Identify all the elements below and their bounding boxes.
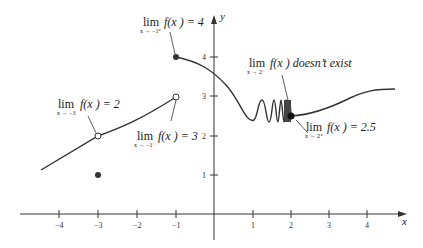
svg-text:f(x ) = 3: f(x ) = 3 [158, 129, 198, 143]
x-tick-label: −3 [94, 221, 103, 230]
svg-text:x → −1⁺: x → −1⁺ [140, 28, 161, 34]
open-point [95, 133, 101, 139]
y-tick-label: 2 [202, 132, 206, 141]
filled-point [173, 54, 179, 60]
x-tick-label: 2 [289, 221, 293, 230]
annotation-lim-x-neg1-left: lim x → −1⁻ f(x ) = 3 [134, 129, 198, 148]
x-tick-label: −1 [172, 221, 181, 230]
svg-text:lim: lim [249, 56, 266, 70]
open-point [173, 94, 179, 100]
x-tick-label: 3 [327, 221, 331, 230]
annotation-lim-x-2-left: lim x → 2⁻ f(x ) doesn’t exist [247, 56, 352, 75]
x-tick-label: −2 [133, 221, 142, 230]
svg-text:x → 2⁻: x → 2⁻ [247, 69, 265, 75]
x-axis-label: x [401, 215, 407, 227]
svg-text:lim: lim [143, 15, 160, 29]
y-tick-label: 3 [202, 92, 206, 101]
svg-text:f(x ) = 4: f(x ) = 4 [164, 15, 204, 29]
y-axis-label: y [219, 10, 225, 22]
annotation-lim-x-neg1-right: lim x → −1⁺ f(x ) = 4 [140, 15, 204, 34]
svg-text:lim: lim [58, 97, 75, 111]
leader-lines [88, 32, 308, 133]
svg-text:f(x ) = 2.5: f(x ) = 2.5 [327, 120, 376, 134]
x-tick-label: 4 [365, 221, 369, 230]
y-axis [211, 15, 217, 240]
annotation-lim-x-2-right: lim x → 2⁺ f(x ) = 2.5 [305, 120, 376, 139]
svg-text:x → 2⁺: x → 2⁺ [305, 133, 323, 139]
svg-text:x → −1⁻: x → −1⁻ [134, 142, 155, 148]
x-tick-label: −4 [55, 221, 64, 230]
y-tick-label: 1 [202, 171, 206, 180]
svg-text:lim: lim [306, 120, 323, 134]
svg-text:lim: lim [137, 129, 154, 143]
svg-text:x → −3: x → −3 [57, 110, 75, 116]
y-tick-label: 4 [202, 53, 206, 62]
svg-text:f(x ) doesn’t exist: f(x ) doesn’t exist [270, 56, 352, 70]
filled-point [288, 113, 295, 120]
function-curve [41, 57, 395, 170]
filled-point [95, 172, 101, 178]
annotation-lim-x-neg3: lim x → −3 f(x ) = 2 [57, 97, 120, 116]
limits-graph: x y −4 −3 −2 −1 1 2 3 4 1 2 3 4 [0, 0, 423, 248]
svg-text:f(x ) = 2: f(x ) = 2 [80, 97, 120, 111]
x-tick-label: 1 [251, 221, 255, 230]
